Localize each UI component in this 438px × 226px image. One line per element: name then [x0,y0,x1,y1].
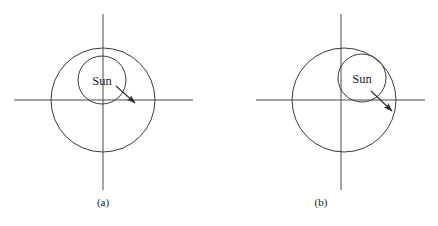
panel-b-radius-arrow [371,91,392,111]
panel-b: Sun [256,14,425,190]
panel-a-caption: (a) [83,196,123,208]
panel-a: Sun [14,14,193,190]
figure-container: Sun Sun (a) (b) [0,0,438,226]
panel-b-sun-label: Sun [352,72,372,86]
orbit-diagram-svg: Sun Sun [0,0,438,226]
panel-b-caption: (b) [301,196,341,208]
panel-a-sun-label: Sun [92,74,112,88]
